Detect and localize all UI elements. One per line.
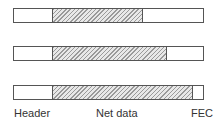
net-data-label: Net data [96, 107, 138, 119]
net-data-segment [53, 47, 167, 60]
header-label: Header [14, 107, 50, 119]
frame-bar-2 [13, 46, 204, 61]
frame-bar-1 [13, 8, 204, 23]
header-segment [14, 9, 53, 22]
frame-bar-3 [13, 85, 204, 100]
net-data-segment [53, 9, 143, 22]
header-segment [14, 47, 53, 60]
header-segment [14, 86, 53, 99]
fec-label: FEC [191, 107, 213, 119]
net-data-segment [53, 86, 193, 99]
